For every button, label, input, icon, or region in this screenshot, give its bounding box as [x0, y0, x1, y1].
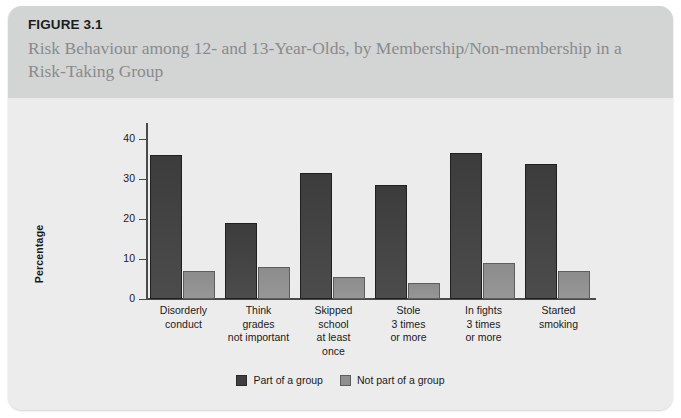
legend-swatch-icon: [236, 375, 247, 386]
bar-part-of-group: [375, 185, 407, 299]
y-tick-mark: [139, 259, 146, 261]
bar-part-of-group: [450, 153, 482, 299]
y-tick-label: 30: [109, 172, 135, 184]
figure-number: FIGURE 3.1: [28, 17, 103, 32]
bar-part-of-group: [300, 173, 332, 299]
plot-panel: Percentage 010203040 DisorderlyconductTh…: [8, 98, 673, 410]
y-tick-mark: [139, 219, 146, 221]
chart-legend: Part of a groupNot part of a group: [8, 374, 673, 386]
legend-item: Not part of a group: [340, 374, 445, 386]
bars-layer: [146, 123, 596, 299]
y-tick-mark: [139, 139, 146, 141]
bar-not-part-of-group: [183, 271, 215, 299]
legend-label: Part of a group: [253, 374, 322, 386]
bar-not-part-of-group: [558, 271, 590, 299]
bar-not-part-of-group: [483, 263, 515, 299]
figure-title: Risk Behaviour among 12- and 13-Year-Old…: [28, 37, 658, 83]
category-label-line: smoking: [513, 318, 605, 332]
figure-card: FIGURE 3.1 Risk Behaviour among 12- and …: [8, 6, 673, 410]
bar-part-of-group: [150, 155, 182, 299]
bar-not-part-of-group: [408, 283, 440, 299]
y-tick-label: 40: [109, 132, 135, 144]
y-tick-mark: [139, 299, 146, 301]
bar-part-of-group: [225, 223, 257, 299]
category-label-line: once: [288, 345, 380, 359]
y-tick-label: 20: [109, 212, 135, 224]
figure-header-band: FIGURE 3.1 Risk Behaviour among 12- and …: [8, 6, 673, 98]
y-tick-label: 0: [109, 292, 135, 304]
bar-part-of-group: [525, 164, 557, 299]
category-label-line: Started: [513, 304, 605, 318]
bar-not-part-of-group: [258, 267, 290, 299]
category-label-line: or more: [438, 331, 530, 345]
legend-swatch-icon: [340, 375, 351, 386]
y-axis-label: Percentage: [33, 199, 45, 309]
x-axis-category-label: Startedsmoking: [513, 304, 605, 331]
x-axis-category-labels: DisorderlyconductThinkgradesnot importan…: [146, 304, 596, 374]
bar-not-part-of-group: [333, 277, 365, 299]
y-tick-label: 10: [109, 252, 135, 264]
y-tick-mark: [139, 179, 146, 181]
legend-label: Not part of a group: [357, 374, 445, 386]
bar-chart: Percentage 010203040 DisorderlyconductTh…: [8, 98, 673, 410]
legend-item: Part of a group: [236, 374, 322, 386]
